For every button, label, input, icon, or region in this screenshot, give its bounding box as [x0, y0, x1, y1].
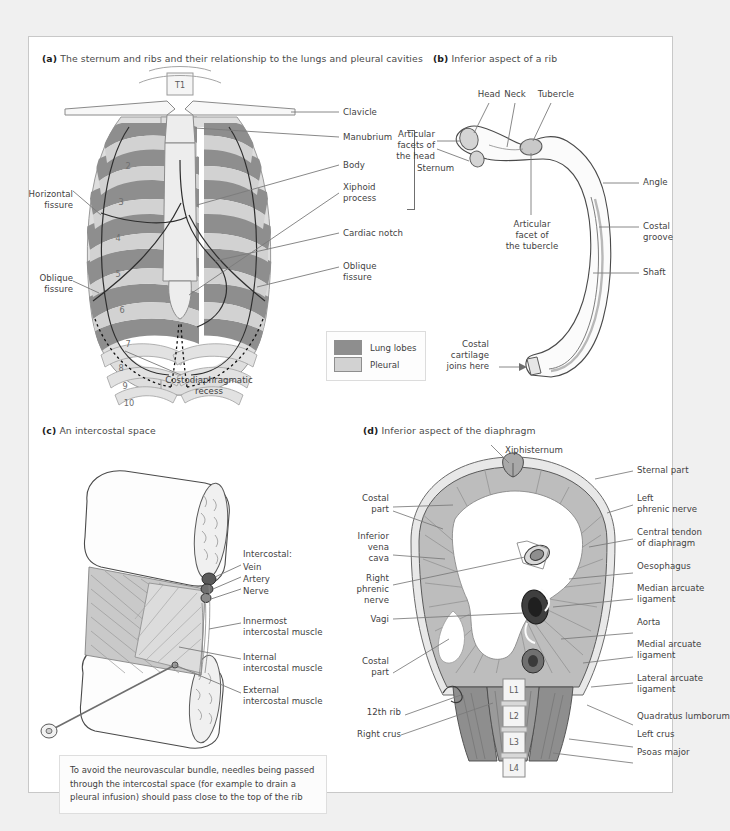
panel-d-tag: (d): [363, 425, 378, 436]
rib-number: 6: [119, 305, 124, 315]
rib-number: 2: [125, 161, 130, 171]
panel-c-tag: (c): [42, 425, 56, 436]
label-left-phrenic-nerve: Left phrenic nerve: [637, 493, 697, 515]
label-internal-intercostal-muscle: Internal intercostal muscle: [243, 652, 323, 674]
label-costal-groove: Costal groove: [643, 221, 673, 243]
vertebra-label: L3: [509, 738, 519, 747]
label-inferior-vena-cava: Inferior vena cava: [331, 531, 389, 564]
rib-number: 8: [118, 363, 123, 373]
panel-b-title: (b) Inferior aspect of a rib: [433, 53, 557, 64]
label-cardiac-notch: Cardiac notch: [343, 228, 403, 239]
panel-b-title-text: Inferior aspect of a rib: [452, 53, 558, 64]
label-articular-facets-of-the-head: Articular facets of the head: [377, 129, 435, 162]
panel-a-tag: (a): [42, 53, 57, 64]
label-oesophagus: Oesophagus: [637, 561, 691, 572]
label-body: Body: [343, 160, 365, 171]
label-tubercle: Tubercle: [530, 89, 582, 100]
label-nerve: Nerve: [243, 586, 269, 597]
rib-number: 9: [122, 381, 127, 391]
label-right-phrenic-nerve: Right phrenic nerve: [331, 573, 389, 606]
legend-label-pleural: Pleural: [370, 360, 400, 370]
label-angle: Angle: [643, 177, 668, 188]
label-lateral-arcuate-ligament: Lateral arcuate ligament: [637, 673, 703, 695]
label-xiphoid-process: Xiphoid process: [343, 182, 376, 204]
label-costal-cartilage-joins-here: Costal cartilage joins here: [421, 339, 489, 372]
vertebra-label: L2: [509, 712, 519, 721]
panel-d-title-text: Inferior aspect of the diaphragm: [382, 425, 536, 436]
panel-d-title: (d) Inferior aspect of the diaphragm: [363, 425, 536, 436]
panel-c-title-text: An intercostal space: [59, 425, 155, 436]
label-oblique-fissure-left: Oblique fissure: [11, 273, 73, 295]
panel-b-tag: (b): [433, 53, 448, 64]
panel-c-title: (c) An intercostal space: [42, 425, 156, 436]
label-vagi: Vagi: [331, 614, 389, 625]
panel-a: (a) The sternum and ribs and their relat…: [29, 37, 429, 407]
label-shaft: Shaft: [643, 267, 666, 278]
label-artery: Artery: [243, 574, 270, 585]
label-neck: Neck: [495, 89, 535, 100]
panel-a-title-text: The sternum and ribs and their relations…: [60, 53, 423, 64]
legend-item-pleural: Pleural: [334, 357, 417, 372]
panel-c: (c) An intercostal space: [29, 407, 359, 794]
label-articular-facet-of-the-tubercle: Articular facet of the tubercle: [497, 219, 567, 252]
label-intercostal-group: Intercostal:: [243, 549, 292, 560]
vertebra-label: L4: [509, 764, 519, 773]
label-oblique-fissure-right: Oblique fissure: [343, 261, 377, 283]
rib-number: 4: [115, 233, 120, 243]
label-vein: Vein: [243, 562, 262, 573]
label-costodiaphragmatic-recess: Costodiaphragmatic recess: [139, 375, 279, 397]
label-costal-part-lower: Costal part: [331, 656, 389, 678]
label-psoas-major: Psoas major: [637, 747, 690, 758]
label-medial-arcuate-ligament: Medial arcuate ligament: [637, 639, 701, 661]
label-quadratus-lumborum: Quadratus lumborum: [637, 711, 730, 722]
svg-text:T1: T1: [174, 81, 185, 90]
rib-number: 5: [115, 269, 120, 279]
vertebra-label: L1: [509, 686, 519, 695]
rib-number: 3: [118, 197, 123, 207]
legend-item-lung-lobes: Lung lobes: [334, 340, 417, 355]
legend-swatch-pleural: [334, 357, 362, 372]
label-right-crus: Right crus: [331, 729, 401, 740]
label-left-crus: Left crus: [637, 729, 675, 740]
label-external-intercostal-muscle: External intercostal muscle: [243, 685, 323, 707]
panel-d-drawing: L1 L2 L3 L4: [357, 443, 674, 793]
label-horizontal-fissure: Horizontal fissure: [11, 189, 73, 211]
label-costal-part-upper: Costal part: [331, 493, 389, 515]
legend-swatch-lung-lobes: [334, 340, 362, 355]
label-xiphisternum: Xiphisternum: [505, 445, 563, 456]
label-innermost-intercostal-muscle: Innermost intercostal muscle: [243, 616, 323, 638]
legend-label-lung-lobes: Lung lobes: [370, 343, 417, 353]
label-median-arcuate-ligament: Median arcuate ligament: [637, 583, 704, 605]
label-central-tendon-of-diaphragm: Central tendon of diaphragm: [637, 527, 702, 549]
label-sternal-part: Sternal part: [637, 465, 689, 476]
panel-a-legend: Lung lobes Pleural: [326, 331, 426, 381]
rib-number: 7: [125, 339, 130, 349]
label-12th-rib: 12th rib: [331, 707, 401, 718]
label-aorta: Aorta: [637, 617, 660, 628]
panel-b: (b) Inferior aspect of a rib: [427, 37, 674, 407]
figure-page: (a) The sternum and ribs and their relat…: [28, 36, 673, 793]
panel-d: (d) Inferior aspect of the diaphragm: [357, 407, 674, 794]
panel-a-title: (a) The sternum and ribs and their relat…: [42, 53, 423, 64]
clinical-note: To avoid the neurovascular bundle, needl…: [59, 755, 327, 814]
label-clavicle: Clavicle: [343, 107, 377, 118]
